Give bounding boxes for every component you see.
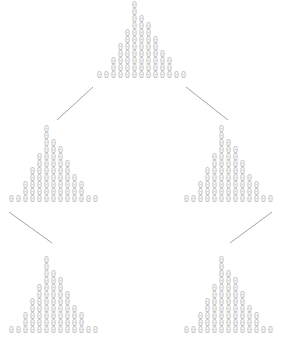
histogram-glyph: 0 [86, 327, 91, 334]
histogram-column: 00000000 [232, 147, 239, 203]
histogram-glyph: 0 [44, 327, 49, 334]
histogram-glyph: 0 [58, 327, 63, 334]
histogram-column: 000 [110, 58, 117, 79]
histogram-column: 000 [22, 313, 29, 334]
histogram-glyph: 0 [198, 327, 203, 334]
edge-right-to-leaf [230, 212, 272, 243]
histogram-column: 0000000 [36, 154, 43, 203]
histogram-glyph: 0 [51, 327, 56, 334]
left-leaf-histogram: 0000000000000000000000000000000000000000… [8, 257, 99, 334]
histogram-column: 00000 [204, 299, 211, 334]
histogram-column: 0 [260, 327, 267, 334]
histogram-glyph: 0 [247, 196, 252, 203]
histogram-column: 0 [180, 72, 187, 79]
histogram-column: 00000000 [145, 23, 152, 79]
histogram-column: 0 [92, 327, 99, 334]
histogram-column: 000 [253, 182, 260, 203]
histogram-column: 000 [197, 313, 204, 334]
histogram-column: 0 [190, 327, 197, 334]
histogram-glyph: 0 [226, 196, 231, 203]
histogram-column: 000000 [152, 37, 159, 79]
histogram-tree-figure: 0000000000000000000000000000000000000000… [0, 0, 282, 337]
histogram-glyph: 0 [72, 327, 77, 334]
histogram-glyph: 0 [139, 72, 144, 79]
histogram-glyph: 0 [247, 327, 252, 334]
histogram-column: 00000 [29, 299, 36, 334]
histogram-column: 000000000 [138, 16, 145, 79]
histogram-glyph: 0 [219, 327, 224, 334]
histogram-column: 0 [15, 196, 22, 203]
histogram-glyph: 0 [219, 196, 224, 203]
histogram-column: 00000 [29, 168, 36, 203]
histogram-glyph: 0 [132, 72, 137, 79]
histogram-column: 0000000 [211, 154, 218, 203]
histogram-glyph: 0 [261, 327, 266, 334]
histogram-column: 0 [267, 327, 274, 334]
histogram-glyph: 0 [118, 72, 123, 79]
histogram-glyph: 0 [240, 327, 245, 334]
edge-left-to-leaf [9, 212, 52, 243]
histogram-glyph: 0 [51, 196, 56, 203]
histogram-column: 0 [183, 196, 190, 203]
histogram-glyph: 0 [79, 327, 84, 334]
histogram-column: 0000000 [36, 285, 43, 334]
histogram-column: 000 [166, 58, 173, 79]
histogram-glyph: 0 [65, 196, 70, 203]
histogram-glyph: 0 [72, 196, 77, 203]
histogram-column: 000000 [64, 292, 71, 334]
histogram-glyph: 0 [160, 72, 165, 79]
histogram-glyph: 0 [268, 196, 273, 203]
histogram-glyph: 0 [9, 196, 14, 203]
histogram-column: 000000 [239, 292, 246, 334]
histogram-column: 0 [96, 72, 103, 79]
histogram-glyph: 0 [191, 327, 196, 334]
histogram-glyph: 0 [97, 72, 102, 79]
histogram-column: 0000 [71, 306, 78, 334]
histogram-glyph: 0 [174, 72, 179, 79]
histogram-column: 000000 [239, 161, 246, 203]
right-child-histogram: 0000000000000000000000000000000000000000… [183, 126, 274, 203]
histogram-glyph: 0 [125, 72, 130, 79]
edge-root-to-right [186, 87, 228, 120]
histogram-column: 0 [85, 196, 92, 203]
histogram-column: 000000000 [225, 271, 232, 334]
histogram-glyph: 0 [30, 196, 35, 203]
histogram-column: 000000000 [50, 140, 57, 203]
histogram-glyph: 0 [16, 327, 21, 334]
histogram-column: 0 [8, 196, 15, 203]
histogram-column: 00000000 [57, 278, 64, 334]
histogram-glyph: 0 [240, 196, 245, 203]
histogram-glyph: 0 [16, 196, 21, 203]
histogram-column: 000 [253, 313, 260, 334]
histogram-column: 000 [197, 182, 204, 203]
edge-root-to-left [57, 87, 93, 120]
histogram-glyph: 0 [167, 72, 172, 79]
histogram-column: 00000000000 [43, 257, 50, 334]
histogram-glyph: 0 [184, 196, 189, 203]
histogram-column: 0 [260, 196, 267, 203]
histogram-glyph: 0 [65, 327, 70, 334]
histogram-column: 0 [190, 196, 197, 203]
histogram-column: 000000000 [50, 271, 57, 334]
histogram-column: 0000 [246, 306, 253, 334]
histogram-column: 0 [267, 196, 274, 203]
histogram-glyph: 0 [93, 196, 98, 203]
histogram-glyph: 0 [254, 196, 259, 203]
histogram-glyph: 0 [37, 196, 42, 203]
histogram-glyph: 0 [30, 327, 35, 334]
histogram-glyph: 0 [44, 196, 49, 203]
histogram-glyph: 0 [181, 72, 186, 79]
histogram-glyph: 0 [23, 196, 28, 203]
histogram-column: 00000000 [232, 278, 239, 334]
histogram-column: 000 [78, 182, 85, 203]
histogram-column: 00000 [204, 168, 211, 203]
histogram-column: 00000 [117, 44, 124, 79]
histogram-glyph: 0 [79, 196, 84, 203]
histogram-glyph: 0 [191, 196, 196, 203]
histogram-glyph: 0 [184, 327, 189, 334]
histogram-glyph: 0 [205, 327, 210, 334]
histogram-column: 000000 [64, 161, 71, 203]
histogram-glyph: 0 [37, 327, 42, 334]
histogram-column: 0 [173, 72, 180, 79]
histogram-glyph: 0 [146, 72, 151, 79]
